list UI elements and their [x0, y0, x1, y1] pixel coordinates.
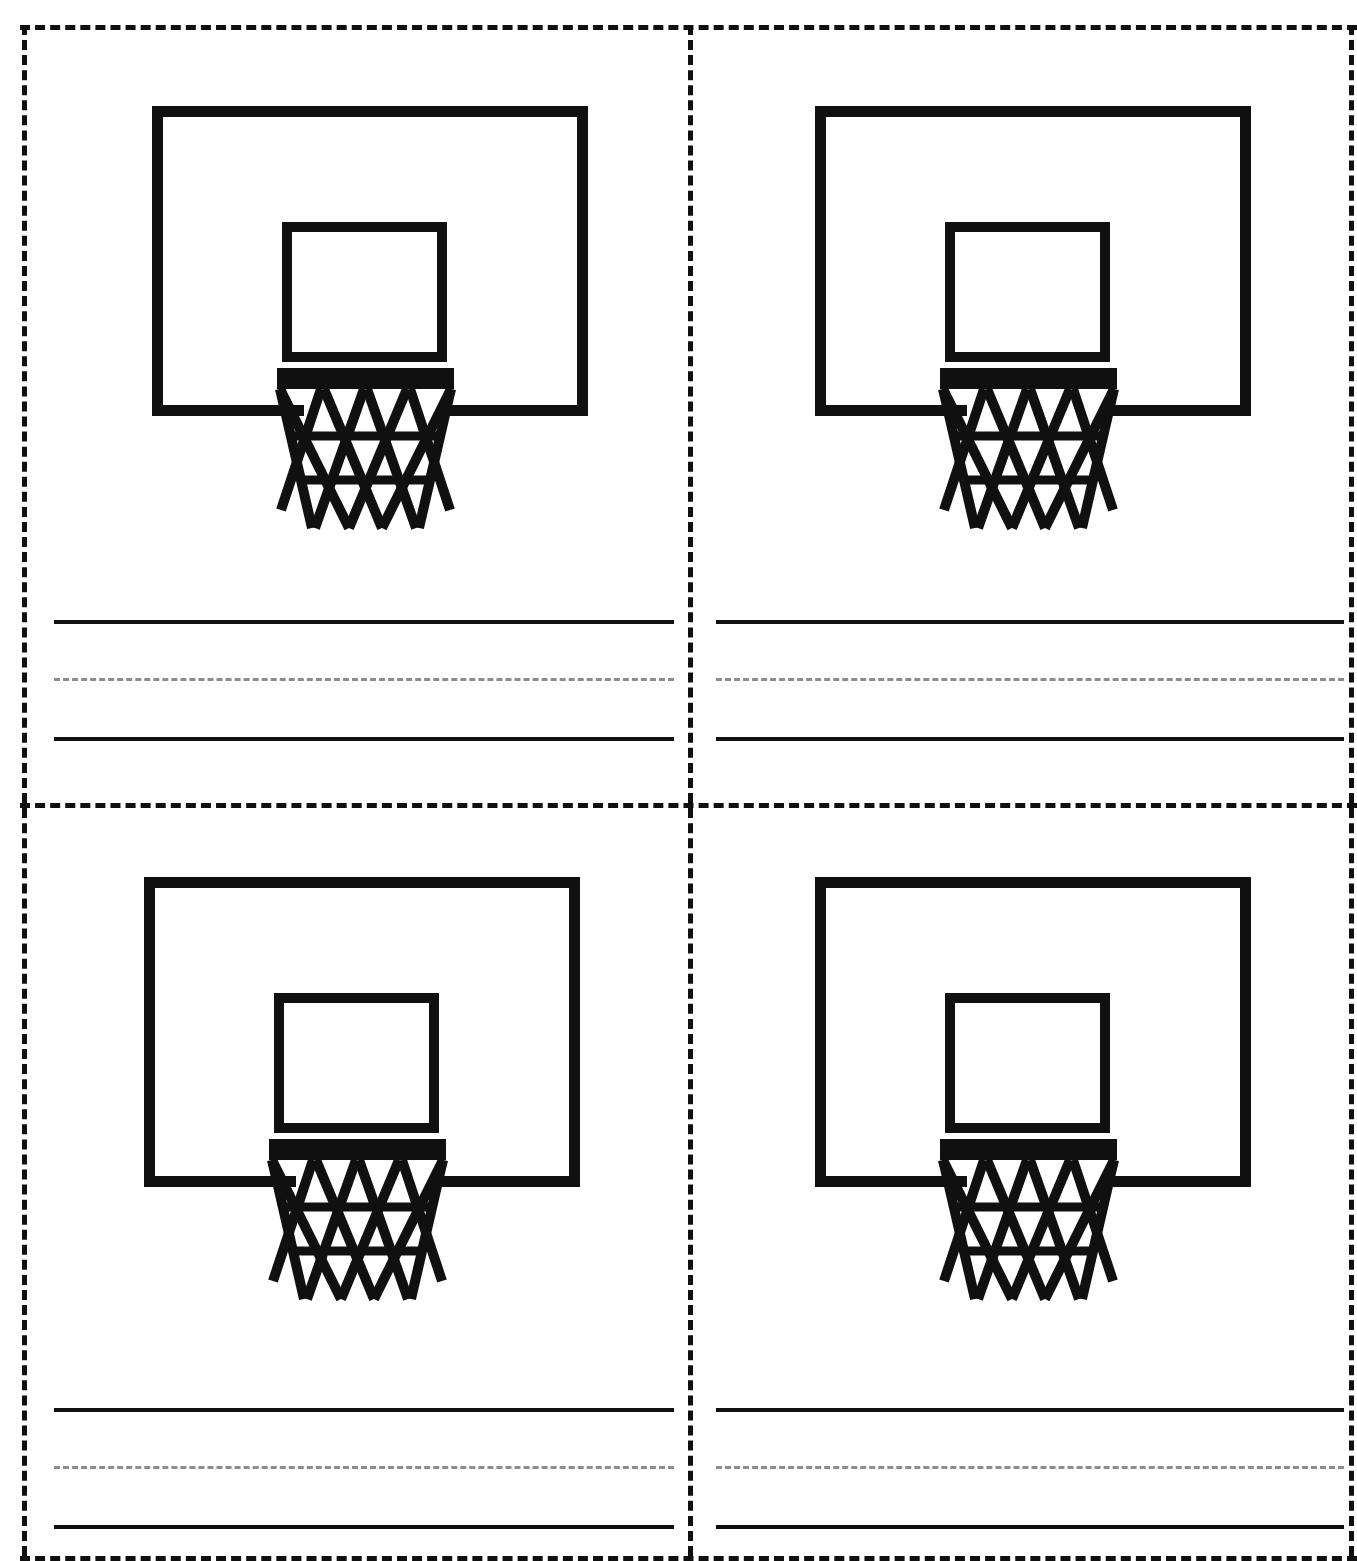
writing-lines-group — [716, 620, 1344, 750]
net-lattice — [272, 1160, 443, 1299]
writing-lines-group — [54, 620, 674, 750]
basketball-hoop-illustration — [793, 851, 1268, 1311]
writing-line-top — [54, 620, 674, 624]
inner-shooting-square — [282, 222, 447, 362]
net-lattice — [943, 1160, 1114, 1299]
card-bottom-left — [22, 803, 688, 1556]
card-top-right — [688, 25, 1349, 803]
writing-line-middle — [54, 1466, 674, 1469]
writing-line-middle — [54, 678, 674, 681]
writing-line-top — [716, 1408, 1344, 1412]
hoop-svg — [793, 851, 1268, 1311]
writing-line-bottom — [716, 1525, 1344, 1529]
writing-line-top — [716, 620, 1344, 624]
cut-line-bottom — [20, 1556, 1357, 1561]
hoop-svg — [122, 851, 597, 1311]
writing-line-middle — [716, 678, 1344, 681]
writing-line-bottom — [54, 1525, 674, 1529]
net-lattice — [943, 389, 1114, 528]
rim-bar — [269, 1139, 446, 1160]
cut-line-right — [1349, 25, 1354, 1556]
writing-line-top — [54, 1408, 674, 1412]
net-lattice — [280, 389, 451, 528]
card-bottom-right — [688, 803, 1349, 1556]
basketball-hoop-illustration — [130, 80, 605, 540]
writing-line-bottom — [716, 737, 1344, 741]
inner-shooting-square — [945, 222, 1110, 362]
hoop-svg — [130, 80, 605, 540]
card-top-left — [22, 25, 688, 803]
writing-lines-group — [54, 1408, 674, 1538]
inner-shooting-square — [274, 993, 439, 1133]
writing-line-bottom — [54, 737, 674, 741]
basketball-hoop-illustration — [793, 80, 1268, 540]
writing-lines-group — [716, 1408, 1344, 1538]
inner-shooting-square — [945, 993, 1110, 1133]
rim-bar — [940, 1139, 1117, 1160]
basketball-hoop-illustration — [122, 851, 597, 1311]
rim-bar — [940, 368, 1117, 389]
hoop-svg — [793, 80, 1268, 540]
rim-bar — [277, 368, 454, 389]
writing-line-middle — [716, 1466, 1344, 1469]
